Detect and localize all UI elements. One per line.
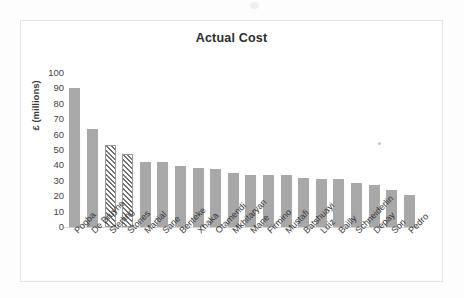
scan-artifact-speck (378, 142, 381, 145)
chart-frame: Actual Cost £ (millions) 100908070605040… (20, 20, 443, 282)
bar (69, 88, 80, 227)
y-tick-label: 30 (53, 176, 64, 186)
scan-artifact-smudge (250, 2, 259, 9)
x-axis-category-labels: PogbaDe BruyneSterlingStonesMartialSaneB… (66, 229, 418, 283)
y-tick-label: 80 (53, 99, 64, 109)
y-axis-title: £ (millions) (30, 115, 41, 131)
y-tick-label: 60 (53, 130, 64, 140)
chart-title: Actual Cost (21, 31, 442, 45)
y-tick-label: 90 (53, 84, 64, 94)
y-tick-label: 100 (48, 68, 64, 78)
y-tick-label: 50 (53, 145, 64, 155)
y-tick-label: 10 (53, 207, 64, 217)
y-tick-label: 70 (53, 114, 64, 124)
y-tick-label: 40 (53, 161, 64, 171)
y-axis-tick-labels: 1009080706050403020100 (41, 73, 64, 227)
bar (333, 179, 344, 227)
y-tick-label: 20 (53, 191, 64, 201)
